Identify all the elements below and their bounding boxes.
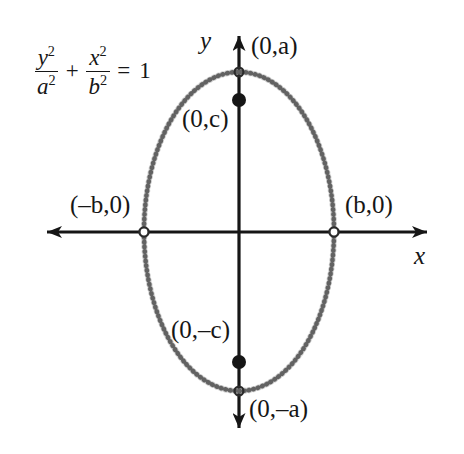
x-axis-label: x: [414, 243, 425, 268]
equation-plus-operator: +: [64, 58, 81, 84]
equation-second-denominator-variable: b: [89, 73, 101, 98]
focus-bottom-label: (0,–c): [171, 317, 230, 342]
equation-first-denominator-exponent: 2: [49, 72, 56, 88]
covertex-right-label: (b,0): [345, 192, 393, 217]
equation-second-fraction: x2 b2: [86, 44, 111, 98]
equation-second-denominator-exponent: 2: [100, 72, 107, 88]
focus-top-dot: [232, 93, 246, 107]
ellipse-equation: y2 a2 + x2 b2 = 1: [34, 44, 153, 98]
equation-first-denominator-variable: a: [37, 73, 49, 98]
ellipse-figure: y2 a2 + x2 b2 = 1 y x (0,a) (0,c) (0,–c)…: [0, 0, 464, 454]
equation-first-fraction: y2 a2: [34, 44, 59, 98]
equation-second-denominator: b2: [86, 72, 111, 99]
equation-first-numerator: y2: [35, 44, 58, 72]
vertex-top-label: (0,a): [251, 33, 298, 58]
y-axis-label: y: [200, 28, 211, 53]
equation-first-denominator: a2: [34, 72, 59, 99]
equation-equals-operator: =: [115, 58, 132, 84]
covertex-left-label: (–b,0): [70, 192, 130, 217]
equation-first-numerator-exponent: 2: [48, 43, 55, 59]
vertex-bottom-label: (0,–a): [249, 396, 308, 421]
equation-right-side: 1: [137, 58, 153, 84]
equation-first-numerator-variable: y: [38, 45, 48, 70]
equation-second-numerator-variable: x: [89, 45, 99, 70]
covertex-right-marker: [329, 227, 338, 236]
equation-second-numerator: x2: [86, 44, 109, 72]
focus-bottom-dot: [232, 355, 246, 369]
equation-second-numerator-exponent: 2: [99, 43, 106, 59]
covertex-left-marker: [139, 227, 148, 236]
focus-top-label: (0,c): [182, 106, 229, 131]
